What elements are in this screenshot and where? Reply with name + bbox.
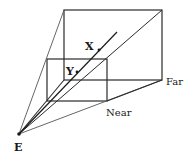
frustum-edge-top-left xyxy=(19,10,64,134)
label-near: Near xyxy=(106,107,132,118)
view-ray xyxy=(19,32,117,134)
frustum-edge-top-right xyxy=(19,10,162,134)
far-plane xyxy=(64,10,162,80)
point-y xyxy=(76,71,79,74)
point-x xyxy=(98,49,101,52)
eye-point xyxy=(17,132,21,136)
label-far: Far xyxy=(166,76,183,87)
frustum-diagram: X Y E Far Near xyxy=(0,0,192,156)
label-x: X xyxy=(85,40,94,53)
label-y: Y xyxy=(65,65,74,78)
frustum-edge-near-bottom xyxy=(107,80,162,101)
label-e: E xyxy=(14,141,22,154)
